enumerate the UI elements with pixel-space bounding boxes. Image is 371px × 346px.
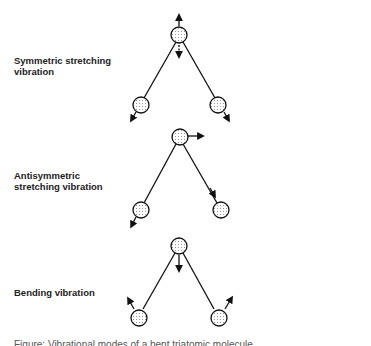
- antisymmetric-stretch-molecule: [132, 129, 229, 225]
- molecule-diagram: [0, 0, 371, 346]
- symmetric-stretch-molecule: [132, 17, 228, 119]
- figure-caption: Figure: Vibrational modes of a bent tria…: [14, 339, 354, 346]
- bending-molecule: [129, 238, 231, 326]
